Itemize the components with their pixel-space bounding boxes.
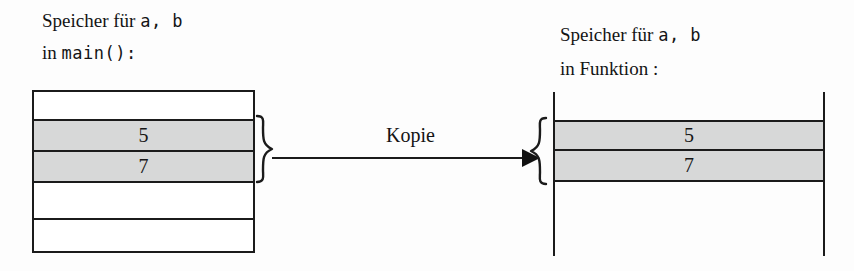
left-caption-line-2: in main():: [42, 38, 183, 68]
left-memory-cell-5: [34, 220, 253, 251]
left-memory-box: 5 7: [32, 90, 255, 253]
left-caption-line-1: Speicher für a, b: [42, 6, 183, 36]
left-caption-variables: a, b: [140, 11, 183, 31]
left-memory-caption: Speicher für a, b in main():: [42, 6, 183, 68]
left-caption-text: Speicher für: [42, 10, 140, 31]
right-caption-variables: a, b: [658, 25, 701, 45]
left-cell-3-value: 7: [34, 155, 253, 178]
right-memory-cell-1: 5: [555, 120, 823, 151]
left-caption-in: in: [42, 42, 62, 63]
left-caption-function: main():: [62, 43, 137, 63]
right-caption-line-2: in Funktion :: [560, 54, 701, 84]
right-memory-box: 5 7: [553, 92, 825, 256]
right-caption-text: Speicher für: [560, 24, 658, 45]
left-memory-cell-2: 5: [34, 121, 253, 152]
right-memory-cell-2: 7: [555, 151, 823, 182]
right-curly-brace-icon: [528, 116, 550, 190]
left-cell-2-value: 5: [34, 124, 253, 147]
left-memory-cell-1: [34, 92, 253, 121]
right-caption-line-1: Speicher für a, b: [560, 20, 701, 50]
left-memory-cell-4: [34, 183, 253, 220]
right-box-right-rail: [823, 92, 825, 256]
figure-canvas: Speicher für a, b in main(): 5 7 Kopie S…: [0, 0, 854, 271]
right-memory-rows: 5 7: [555, 120, 823, 182]
copy-arrow-label: Kopie: [386, 124, 435, 147]
right-memory-caption: Speicher für a, b in Funktion :: [560, 20, 701, 84]
right-cell-1-value: 5: [555, 124, 823, 147]
left-memory-cell-3: 7: [34, 152, 253, 183]
right-cell-2-value: 7: [555, 154, 823, 177]
